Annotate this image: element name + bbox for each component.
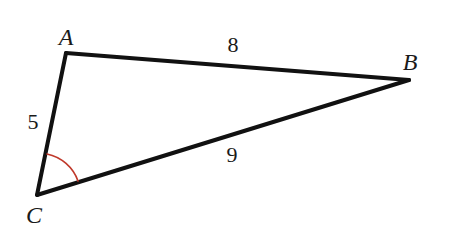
side-length-label-ab: 8 <box>228 32 239 58</box>
vertex-label-b: B <box>403 49 418 76</box>
side-length-label-cb: 9 <box>227 142 238 168</box>
side-length-label-ca: 5 <box>28 109 39 135</box>
vertex-label-c: C <box>26 202 42 229</box>
triangle-diagram: A B C 8 9 5 <box>0 0 451 248</box>
vertex-label-a: A <box>59 24 74 51</box>
